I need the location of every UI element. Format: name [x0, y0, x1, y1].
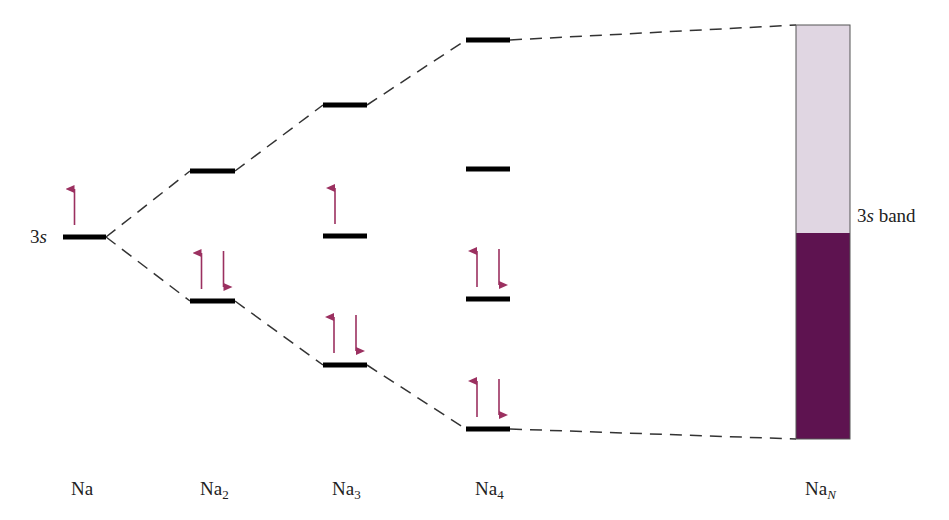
species-label-na3: Na3: [332, 478, 361, 503]
lower-connector-band: [510, 429, 796, 439]
energy-level-diagram: [0, 0, 949, 520]
species-label-na4: Na4: [475, 478, 504, 503]
band-label-3s: 3s band: [857, 205, 916, 227]
energy-level: [323, 363, 367, 368]
energy-level: [466, 167, 510, 172]
upper-connector-band: [510, 25, 796, 40]
band-empty-region: [796, 25, 850, 233]
band-filled-region: [796, 233, 850, 439]
upper-connector: [367, 40, 466, 105]
energy-level: [323, 103, 367, 108]
energy-level: [190, 299, 235, 304]
orbital-label-3s: 3s: [30, 226, 47, 248]
lower-connector: [367, 365, 466, 429]
lower-connector: [106, 237, 190, 301]
species-label-na: Na: [71, 478, 93, 500]
energy-level: [466, 427, 510, 432]
energy-level: [466, 297, 510, 302]
lower-connector: [235, 301, 323, 365]
energy-level: [466, 38, 510, 43]
energy-level: [323, 234, 367, 239]
energy-level: [63, 235, 106, 240]
energy-level: [190, 169, 235, 174]
upper-connector: [235, 105, 323, 171]
species-label-na2: Na2: [200, 478, 229, 503]
upper-connector: [106, 171, 190, 237]
species-label-naN: NaN: [805, 478, 836, 503]
